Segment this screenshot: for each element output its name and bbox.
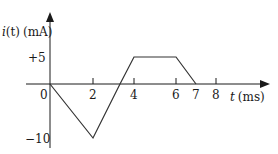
x-axis-label: t(ms): [230, 90, 265, 104]
y-tick-label-plus5: +5: [28, 51, 46, 65]
x-axis-arrow-icon: [260, 80, 270, 88]
x-tick-label-6: 6: [172, 88, 180, 102]
x-tick-marks: [93, 78, 216, 84]
x-tick-label-2: 2: [89, 88, 97, 102]
current-waveform-chart: i(t)(mA) +5 −10 0 2 4 6 7 8 t(ms): [0, 0, 278, 154]
x-tick-label-0: 0: [40, 88, 48, 102]
x-tick-label-4: 4: [130, 88, 138, 102]
y-tick-label-minus10: −10: [25, 132, 50, 146]
y-axis-arrow-icon: [46, 12, 54, 22]
y-axis-label: i(t)(mA): [2, 25, 52, 39]
x-tick-label-7: 7: [192, 88, 200, 102]
x-tick-label-8: 8: [212, 88, 220, 102]
